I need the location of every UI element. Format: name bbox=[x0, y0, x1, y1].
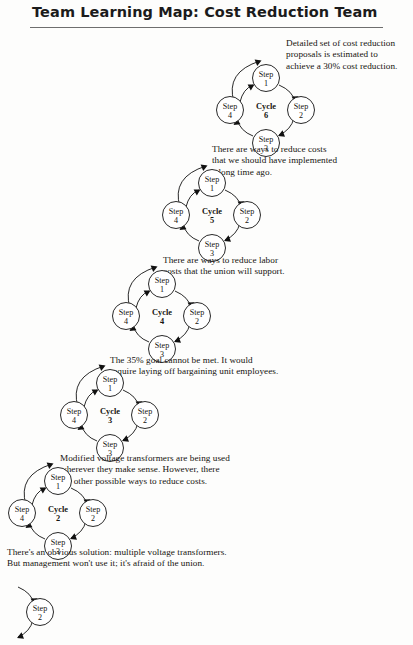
cycle-diagram-6: Step 1 Step 2 Step 3 Step 4 Cycle 6 bbox=[212, 58, 320, 154]
arc-step3-to-step4 bbox=[237, 119, 253, 136]
arrowhead-step2-to-step3 bbox=[174, 336, 181, 343]
arc-step3-to-step4 bbox=[133, 325, 149, 342]
cycle-center-label: Cycle bbox=[48, 505, 68, 514]
node-step-2-label-top: Step bbox=[33, 604, 47, 613]
node-step-4-label-bottom: 4 bbox=[228, 111, 232, 120]
node-step-3-label-top: Step bbox=[51, 538, 65, 547]
title-divider bbox=[30, 27, 383, 28]
node-step-1-label-bottom: 1 bbox=[264, 79, 268, 88]
node-step-2-label-bottom: 2 bbox=[143, 416, 147, 425]
node-step-2-label-bottom: 2 bbox=[38, 613, 42, 622]
node-step-2-label-top: Step bbox=[138, 407, 152, 416]
node-step-2-label-top: Step bbox=[190, 308, 204, 317]
cycle-center-label: Cycle bbox=[202, 207, 222, 216]
node-step-4-label-bottom: 4 bbox=[20, 514, 24, 523]
arc-step3-to-step4 bbox=[183, 224, 199, 241]
cycle-center-number: 5 bbox=[210, 216, 214, 225]
node-step-4-label-top: Step bbox=[119, 308, 133, 317]
node-step-1-label-bottom: 1 bbox=[160, 285, 164, 294]
cycle-5-graphic: Step 1 Step 2 Step 3 Step 4 Cycle 5 bbox=[158, 163, 266, 259]
cycle-diagram-3: Step 1 Step 2 Step 3 Step 4 Cycle 3 bbox=[56, 363, 164, 459]
arrowhead-step2-to-step3 bbox=[224, 235, 231, 242]
node-step-4-label-top: Step bbox=[15, 505, 29, 514]
node-step-4-label-top: Step bbox=[223, 102, 237, 111]
node-step-3-label-top: Step bbox=[259, 135, 273, 144]
node-step-2-label-bottom: 2 bbox=[299, 111, 303, 120]
cycle-1-graphic: Step 2 bbox=[0, 560, 59, 645]
page-title: Team Learning Map: Cost Reduction Team bbox=[32, 4, 377, 20]
node-step-4-label-top: Step bbox=[67, 407, 81, 416]
cycle-2-graphic: Step 1 Step 2 Step 3 Step 4 Cycle 2 bbox=[4, 461, 112, 557]
node-step-2-label-bottom: 2 bbox=[91, 514, 95, 523]
arc-step3-to-step4 bbox=[81, 424, 97, 441]
node-step-4-label-bottom: 4 bbox=[72, 416, 76, 425]
node-step-3-label-top: Step bbox=[205, 240, 219, 249]
cycle-center-label: Cycle bbox=[152, 308, 172, 317]
node-step-1-label-top: Step bbox=[155, 276, 169, 285]
node-step-1-label-bottom: 1 bbox=[210, 184, 214, 193]
node-step-1-label-top: Step bbox=[51, 473, 65, 482]
node-step-2-label-top: Step bbox=[86, 505, 100, 514]
cycle-6-graphic: Step 1 Step 2 Step 3 Step 4 Cycle 6 bbox=[212, 58, 320, 154]
learning-map-page: Team Learning Map: Cost Reduction Team D… bbox=[0, 0, 413, 645]
cycle-center-number: 4 bbox=[160, 317, 165, 326]
node-step-3-label-top: Step bbox=[103, 440, 117, 449]
cycle-center-number: 6 bbox=[264, 111, 268, 120]
cycle-diagram-2: Step 1 Step 2 Step 3 Step 4 Cycle 2 bbox=[4, 461, 112, 557]
node-step-1-label-top: Step bbox=[103, 375, 117, 384]
node-step-1-label-top: Step bbox=[205, 175, 219, 184]
cycle-center-label: Cycle bbox=[100, 407, 120, 416]
cycle-3-graphic: Step 1 Step 2 Step 3 Step 4 Cycle 3 bbox=[56, 363, 164, 459]
cycle-center-number: 2 bbox=[56, 514, 60, 523]
cycle-4-graphic: Step 1 Step 2 Step 3 Step 4 Cycle 4 bbox=[108, 264, 216, 360]
cycle-center-label: Cycle bbox=[256, 102, 276, 111]
node-step-4-label-bottom: 4 bbox=[124, 317, 128, 326]
node-step-1-label-top: Step bbox=[259, 70, 273, 79]
arc-step3-to-step4 bbox=[29, 522, 45, 539]
node-step-4-label-bottom: 4 bbox=[174, 216, 178, 225]
arrowhead-step2-to-step3 bbox=[122, 435, 129, 442]
cycle-diagram-5: Step 1 Step 2 Step 3 Step 4 Cycle 5 bbox=[158, 163, 266, 259]
arrowhead-step2-to-step3 bbox=[278, 130, 285, 137]
cycle-diagram-1-partial: Step 2 bbox=[0, 560, 59, 645]
node-step-4-label-top: Step bbox=[169, 207, 183, 216]
arrowhead-step2-to-step3 bbox=[17, 632, 24, 639]
cycle-diagram-4: Step 1 Step 2 Step 3 Step 4 Cycle 4 bbox=[108, 264, 216, 360]
node-step-2-label-bottom: 2 bbox=[245, 216, 249, 225]
node-step-3-label-top: Step bbox=[155, 341, 169, 350]
cycle-center-number: 3 bbox=[108, 416, 112, 425]
node-step-1-label-bottom: 1 bbox=[108, 384, 112, 393]
node-step-2-label-bottom: 2 bbox=[195, 317, 199, 326]
node-step-2-label-top: Step bbox=[294, 102, 308, 111]
node-step-1-label-bottom: 1 bbox=[56, 482, 60, 491]
arrowhead-step2-to-step3 bbox=[70, 533, 77, 540]
node-step-2-label-top: Step bbox=[240, 207, 254, 216]
